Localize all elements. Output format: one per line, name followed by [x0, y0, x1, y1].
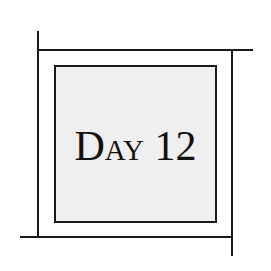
frame-line-left [37, 31, 39, 238]
frame-line-top [38, 49, 253, 51]
day-card: Day 12 [0, 0, 271, 271]
day-box: Day 12 [54, 65, 217, 223]
day-label: Day 12 [74, 125, 196, 167]
frame-line-right [231, 50, 233, 256]
frame-line-bottom [20, 236, 233, 238]
